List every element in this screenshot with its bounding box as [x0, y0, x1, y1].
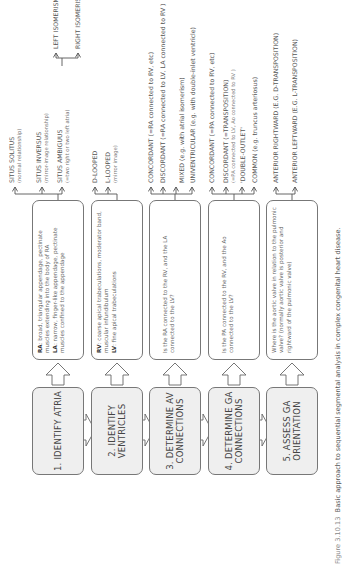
outcome-label: DISCORDANT (=RA connected to LV, LA conn… [159, 3, 166, 183]
desc-text: Is the PA connected to the RV, and the A… [221, 236, 234, 353]
caption-number: Figure 3.10.13 [334, 517, 342, 564]
outcome-av-concordant: CONCORDANT (=RA connected to RV, etc) [147, 52, 154, 183]
outcome-label: UNIVENTRICULAR (e.g. with double-inlet v… [189, 27, 196, 183]
step-identify-ventricles: 2. IDENTIFY VENTRICLES [91, 387, 143, 475]
desc-text: : narrow, finger-like appendage, pectina… [52, 228, 65, 353]
step-label: 2. IDENTIFY VENTRICLES [107, 388, 127, 474]
desc-av-connections: Is the RA connected to the RV, and the L… [149, 200, 201, 360]
outcome-label: COMMON (e.g. truncus arteriosus) [251, 77, 258, 183]
outcome-right-isomerism: RIGHT ISOMERISM [74, 0, 81, 49]
outcome-label: DISCORDANT (=TRANSPOSITION) [222, 80, 229, 183]
outcome-av-discordant: DISCORDANT (=RA connected to LV, LA conn… [159, 3, 166, 183]
outcome-sub: (mirror image) [112, 145, 118, 183]
outcome-situs-solitus: SITUS SOLITUS(normal relationship) [8, 129, 23, 183]
outcome-anterior-leftward: ANTERIOR LEFTWARD (E.G. L-TRANSPOSITION) [291, 39, 298, 183]
outcome-label: ANTERIOR RIGHTWARD (E.G. D-TRANSPOSITION… [272, 33, 279, 183]
outcome-label: CONCORDANT (=PA connected to RV, etc) [208, 53, 215, 183]
step-label: 4. DETERMINE GA CONNECTIONS [224, 388, 244, 474]
desc-text: : broad, triangular appendage, pectinate… [37, 230, 50, 353]
figure-rotated: 1. IDENTIFY ATRIA 2. IDENTIFY VENTRICLES… [0, 0, 352, 568]
outcome-label: LEFT ISOMERISM [52, 0, 59, 49]
outcome-situs-inversus: SITUS INVERSUS(mirror-image relationship… [35, 113, 50, 183]
outcome-ga-double-outlet: 'DOUBLE-OUTLET' [239, 127, 246, 183]
outcome-label: SITUS AMBIGUUS [56, 130, 63, 183]
desc-text: Where is the aortic valve in relation to… [271, 207, 292, 353]
outcome-label: CONCORDANT (=RA connected to RV, etc) [147, 52, 154, 183]
desc-bold: RV [96, 344, 102, 353]
outcome-label: ANTERIOR LEFTWARD (E.G. L-TRANSPOSITION) [291, 39, 298, 183]
outcome-sub: (=two right or two left atria) [64, 110, 70, 183]
step-label: 3. DETERMINE AV CONNECTIONS [165, 388, 185, 474]
desc-bold: LV [111, 346, 117, 353]
step-identify-atria: 1. IDENTIFY ATRIA [32, 387, 84, 475]
outcome-label: L-LOOPED [104, 152, 111, 183]
outcome-av-mixed: MIXED (e.g. with atrial isomerism) [178, 77, 185, 183]
desc-ventricles: RV: coarse apical trabeculations, modera… [91, 200, 143, 360]
outcome-label: SITUS SOLITUS [8, 137, 15, 183]
desc-text: : coarse apical trabeculations, moderato… [96, 211, 109, 353]
outcome-ga-concordant: CONCORDANT (=PA connected to RV, etc) [208, 53, 215, 183]
desc-text: Is the RA connected to the RV, and the L… [162, 236, 175, 353]
desc-bold: RA [37, 344, 43, 353]
outcome-label: D-LOOPED [91, 151, 98, 183]
outcome-d-looped: D-LOOPED [91, 151, 98, 183]
desc-text: : fine apical trabeculations [111, 271, 117, 345]
outcome-sub: (=PA connected to LV, Ao connected to RV… [230, 69, 236, 183]
outcome-ga-common: COMMON (e.g. truncus arteriosus) [251, 77, 258, 183]
outcome-label: RIGHT ISOMERISM [74, 0, 81, 49]
desc-bold: LA [52, 345, 58, 353]
outcome-label: 'DOUBLE-OUTLET' [239, 127, 246, 183]
step-determine-av-connections: 3. DETERMINE AV CONNECTIONS [149, 387, 201, 475]
desc-ga-orientation: Where is the aortic valve in relation to… [266, 200, 318, 360]
step-label: 5. ASSESS GA ORIENTATION [282, 388, 302, 474]
outcome-situs-ambiguus: SITUS AMBIGUUS(=two right or two left at… [56, 110, 71, 183]
outcome-anterior-rightward: ANTERIOR RIGHTWARD (E.G. D-TRANSPOSITION… [272, 33, 279, 183]
outcome-sub: (normal relationship) [16, 129, 22, 183]
outcome-label: SITUS INVERSUS [35, 132, 42, 183]
outcome-ga-discordant: DISCORDANT (=TRANSPOSITION)(=PA connecte… [222, 69, 237, 183]
outcome-left-isomerism: LEFT ISOMERISM [52, 0, 59, 49]
step-determine-ga-connections: 4. DETERMINE GA CONNECTIONS [208, 387, 260, 475]
step-assess-ga-orientation: 5. ASSESS GA ORIENTATION [266, 387, 318, 475]
desc-ga-connections: Is the PA connected to the RV, and the A… [208, 200, 260, 360]
outcome-l-looped: L-LOOPED(mirror image) [104, 145, 119, 183]
step-label: 1. IDENTIFY ATRIA [53, 391, 63, 471]
outcome-av-univentricular: UNIVENTRICULAR (e.g. with double-inlet v… [189, 27, 196, 183]
outcome-label: MIXED (e.g. with atrial isomerism) [178, 77, 185, 183]
desc-atria: RA: broad, triangular appendage, pectina… [32, 200, 84, 360]
caption-text: Basic approach to sequential segmental a… [334, 227, 342, 512]
outcome-sub: (mirror-image relationship) [43, 113, 49, 183]
figure-caption: Figure 3.10.13 Basic approach to sequent… [334, 227, 342, 564]
